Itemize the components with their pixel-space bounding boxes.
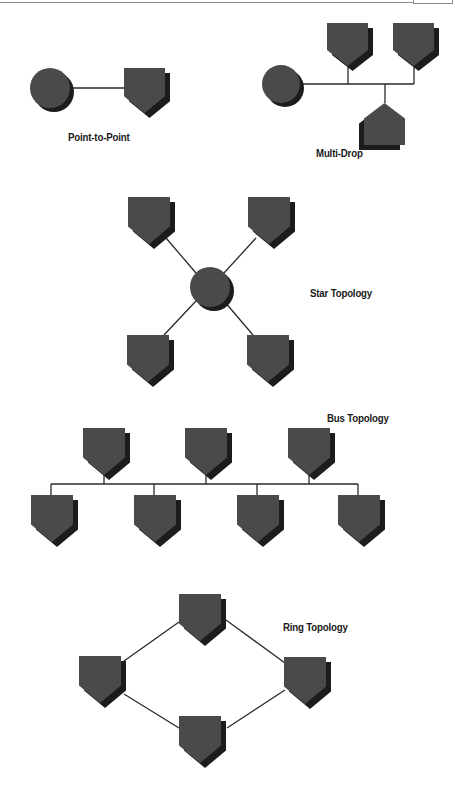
- label-multi-drop: Multi-Drop: [316, 147, 363, 159]
- connection-line: [226, 620, 285, 663]
- hub-circle-icon: [190, 267, 230, 307]
- label-bus-topology: Bus Topology: [327, 412, 389, 424]
- connection-line: [224, 301, 253, 335]
- diagram-star: [127, 197, 295, 387]
- hub-circle-icon: [262, 65, 300, 103]
- label-point-to-point: Point-to-Point: [68, 131, 130, 143]
- network-topologies-page: Point-to-Point Multi-Drop Star Topology …: [0, 0, 455, 792]
- connection-line: [164, 301, 196, 335]
- connection-line: [124, 694, 179, 728]
- topology-diagrams: [0, 0, 455, 792]
- connection-line: [124, 622, 179, 661]
- hub-circle-icon: [30, 68, 70, 108]
- diagram-point-to-point: [30, 68, 170, 118]
- label-ring-topology: Ring Topology: [283, 621, 348, 633]
- connection-line: [166, 238, 196, 273]
- label-star-topology: Star Topology: [310, 287, 372, 299]
- connection-line: [227, 690, 285, 728]
- diagram-bus: [31, 428, 385, 547]
- connection-line: [224, 238, 256, 273]
- diagram-multi-drop: [262, 23, 439, 150]
- node-pentagon-icon: [364, 103, 405, 145]
